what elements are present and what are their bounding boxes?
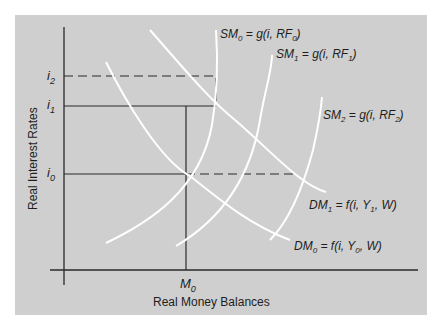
y-axis-title: Real Interest Rates bbox=[26, 107, 40, 210]
tick-M0: M0 bbox=[180, 276, 196, 294]
money-market-diagram: i2 i1 i0 M0 Real Money Balances Real Int… bbox=[0, 0, 441, 331]
label-SM0: SM0 = g(i, RF0) bbox=[220, 27, 301, 43]
curve-SM2 bbox=[270, 97, 322, 240]
curve-SM0 bbox=[106, 30, 217, 243]
label-SM2: SM2 = g(i, RF2) bbox=[323, 108, 404, 124]
tick-i2: i2 bbox=[47, 68, 55, 86]
label-DM1: DM1 = f(i, Y1, W) bbox=[309, 198, 397, 214]
x-axis-title: Real Money Balances bbox=[153, 295, 270, 309]
tick-i1: i1 bbox=[47, 97, 55, 115]
curve-SM1 bbox=[176, 55, 272, 246]
label-SM1: SM1 = g(i, RF1) bbox=[276, 47, 357, 63]
label-DM0: DM0 = f(i, Y0, W) bbox=[294, 239, 382, 255]
tick-i0: i0 bbox=[47, 165, 55, 183]
curve-DM0 bbox=[106, 62, 290, 240]
